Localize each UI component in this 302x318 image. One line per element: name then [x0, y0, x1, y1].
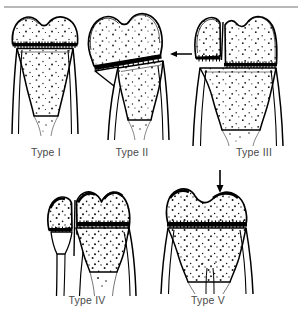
vertical-fracture-line-type-3: [222, 22, 224, 60]
epiphysis-type-3: [225, 17, 277, 64]
epiphysis-type-5: [166, 189, 246, 224]
metaphysis-type-1: [12, 49, 78, 137]
metaphysis-type-5: [161, 228, 253, 294]
epiphysis-type-1: [12, 17, 77, 44]
salter-harris-figure: Type I: [0, 0, 302, 318]
metaphyseal-fragment-type-2: [95, 67, 118, 86]
epiphyseal-fragment-type-3: [195, 18, 221, 62]
caption-type-1: Type I: [8, 146, 84, 158]
metaphysis-type-4: [76, 228, 136, 296]
caption-type-3: Type III: [216, 146, 292, 158]
vertical-fracture-line-type-4: [74, 200, 75, 256]
bone-diagram-type-2: [84, 10, 196, 146]
metaphysis-type-3: [193, 68, 283, 146]
bone-diagram-type-1: [8, 12, 88, 144]
displaced-fragment-type-4: [48, 197, 73, 296]
bone-diagram-type-5: [158, 168, 264, 296]
caption-type-5: Type V: [168, 294, 248, 306]
caption-type-2: Type II: [84, 146, 180, 158]
bone-diagram-type-3: [188, 8, 296, 148]
caption-type-4: Type IV: [44, 294, 130, 306]
bone-diagram-type-4: [42, 176, 146, 298]
compression-arrow-type-5: [217, 170, 224, 193]
